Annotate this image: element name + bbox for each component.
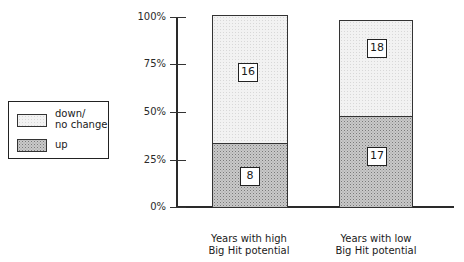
legend: down/ no change up [8,101,109,159]
y-tick-100 [170,17,186,18]
legend-label-down: down/ no change [55,108,107,130]
category-label-low: Years with low Big Hit potential [321,233,431,257]
y-tick-label-25: 25% [126,155,166,165]
y-tick-0 [170,207,186,208]
category-label-high-line2: Big Hit potential [194,245,304,257]
y-tick-label-50: 50% [126,107,166,117]
category-label-high: Years with high Big Hit potential [194,233,304,257]
bar-low-down-segment [339,20,413,118]
category-label-high-line1: Years with high [194,233,304,245]
category-label-low-line2: Big Hit potential [321,245,431,257]
legend-label-down-line1: down/ [55,108,107,119]
bar-low-down-value: 18 [367,39,387,58]
legend-swatch-down [17,114,47,127]
y-tick-label-100: 100% [126,12,166,22]
category-label-low-line1: Years with low [321,233,431,245]
y-tick-label-0: 0% [126,202,166,212]
bar-low-up-value: 17 [367,147,387,166]
y-tick-50 [170,112,186,113]
y-tick-label-75: 75% [126,59,166,69]
bar-high-up-value: 8 [240,167,260,186]
legend-label-up: up [55,139,68,150]
legend-label-down-line2: no change [55,119,107,130]
y-tick-75 [170,64,186,65]
bar-high-down-value: 16 [238,63,258,82]
y-tick-25 [170,160,186,161]
legend-swatch-up [17,139,47,152]
